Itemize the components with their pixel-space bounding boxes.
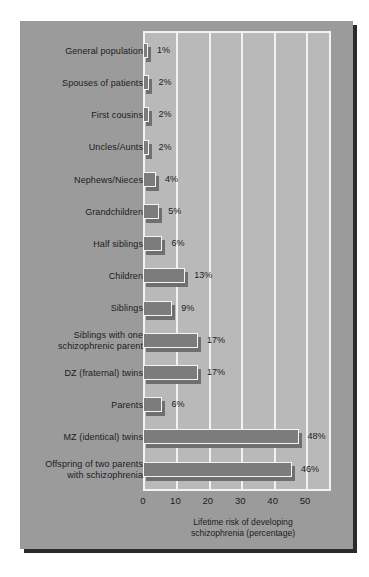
bar-container: 17% <box>143 365 331 381</box>
bar-value-label: 2% <box>158 139 171 155</box>
bar-container: 9% <box>143 301 331 317</box>
bar-row: MZ (identical) twins48% <box>20 429 353 445</box>
bar-row: Spouses of patients2% <box>20 75 353 91</box>
bar-value-label: 13% <box>194 267 212 283</box>
bar[interactable] <box>143 429 299 444</box>
category-label: Offspring of two parents with schizophre… <box>23 459 143 480</box>
category-label: Uncles/Aunts <box>23 142 143 153</box>
x-tick-label: 0 <box>140 495 145 506</box>
bar[interactable] <box>143 236 162 251</box>
category-label: Parents <box>23 400 143 411</box>
bar[interactable] <box>143 301 172 316</box>
category-label: Siblings with one schizophrenic parent <box>23 330 143 351</box>
bar-container: 6% <box>143 236 331 252</box>
bar-row: Nephews/Nieces4% <box>20 172 353 188</box>
bar-container: 2% <box>143 140 331 156</box>
bar-value-label: 17% <box>207 364 225 380</box>
category-label: Spouses of patients <box>23 78 143 89</box>
bar-value-label: 1% <box>157 42 170 58</box>
category-label: Children <box>23 271 143 282</box>
bar-container: 5% <box>143 204 331 220</box>
bar-container: 13% <box>143 268 331 284</box>
bar[interactable] <box>143 107 149 122</box>
x-tick-label: 40 <box>267 495 278 506</box>
bar-value-label: 6% <box>171 235 184 251</box>
bar[interactable] <box>143 140 149 155</box>
x-axis: 01020304050 <box>143 495 331 509</box>
bar-row: Half siblings6% <box>20 236 353 252</box>
bar[interactable] <box>143 268 185 283</box>
category-label: Half siblings <box>23 239 143 250</box>
bar[interactable] <box>143 333 198 348</box>
bar-row: Grandchildren5% <box>20 204 353 220</box>
bar[interactable] <box>143 365 198 380</box>
category-label: First cousins <box>23 110 143 121</box>
bar-value-label: 2% <box>158 106 171 122</box>
bar-container: 4% <box>143 172 331 188</box>
bar[interactable] <box>143 75 149 90</box>
bar-value-label: 4% <box>165 171 178 187</box>
bar-container: 2% <box>143 75 331 91</box>
x-tick-label: 50 <box>300 495 311 506</box>
bar-value-label: 5% <box>168 203 181 219</box>
bar-value-label: 6% <box>171 396 184 412</box>
bar-row: Uncles/Aunts2% <box>20 140 353 156</box>
bar[interactable] <box>143 462 292 477</box>
bar-row: General population1% <box>20 43 353 59</box>
bar-value-label: 48% <box>308 428 326 444</box>
bar[interactable] <box>143 204 159 219</box>
bar-rows: General population1%Spouses of patients2… <box>20 31 353 491</box>
category-label: DZ (fraternal) twins <box>23 368 143 379</box>
bar-row: Parents6% <box>20 397 353 413</box>
chart-figure: General population1%Spouses of patients2… <box>0 0 369 577</box>
x-tick-label: 10 <box>170 495 181 506</box>
chart-panel: General population1%Spouses of patients2… <box>20 21 353 549</box>
bar-row: Siblings with one schizophrenic parent17… <box>20 333 353 349</box>
bar-container: 17% <box>143 333 331 349</box>
bar[interactable] <box>143 43 148 58</box>
bar-value-label: 17% <box>207 332 225 348</box>
bar-value-label: 46% <box>301 461 319 477</box>
x-tick-label: 20 <box>203 495 214 506</box>
bar-row: DZ (fraternal) twins17% <box>20 365 353 381</box>
category-label: MZ (identical) twins <box>23 432 143 443</box>
bar[interactable] <box>143 172 156 187</box>
bar-row: First cousins2% <box>20 107 353 123</box>
bar-container: 1% <box>143 43 331 59</box>
bar-container: 6% <box>143 397 331 413</box>
bar-row: Offspring of two parents with schizophre… <box>20 462 353 478</box>
x-axis-caption: Lifetime risk of developing schizophreni… <box>143 517 343 539</box>
bar-container: 2% <box>143 107 331 123</box>
bar[interactable] <box>143 397 162 412</box>
bar-row: Siblings9% <box>20 301 353 317</box>
bar-value-label: 9% <box>181 300 194 316</box>
category-label: Nephews/Nieces <box>23 175 143 186</box>
category-label: Grandchildren <box>23 207 143 218</box>
category-label: General population <box>23 46 143 57</box>
bar-container: 48% <box>143 429 331 445</box>
bar-value-label: 2% <box>158 74 171 90</box>
bar-row: Children13% <box>20 268 353 284</box>
category-label: Siblings <box>23 303 143 314</box>
bar-container: 46% <box>143 462 331 478</box>
x-tick-label: 30 <box>235 495 246 506</box>
